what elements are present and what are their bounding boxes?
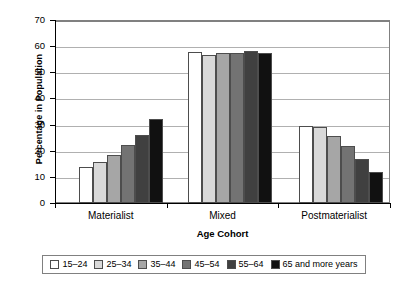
bar [135,135,149,203]
bar [355,159,369,203]
y-tick-label: 70 [5,15,45,25]
legend-label: 15–24 [62,260,87,269]
bar [230,53,244,203]
legend-label: 55–64 [239,260,264,269]
x-tick-mark [55,203,56,208]
legend-swatch [50,260,59,269]
bar [313,127,327,203]
y-tick-label: 10 [5,172,45,182]
legend-item: 35–44 [138,260,175,269]
legend-label: 25–34 [106,260,131,269]
legend-item: 55–64 [227,260,264,269]
bar [107,155,121,203]
bar [121,145,135,203]
x-category-label: Postmaterialist [301,210,367,221]
legend-item: 45–54 [182,260,219,269]
bar [79,167,93,203]
y-tick-label: 40 [5,94,45,104]
x-tick-mark [167,203,168,208]
y-tick-label: 30 [5,120,45,130]
legend: 15–2425–3435–4445–5455–6465 and more yea… [42,255,366,274]
bar [258,53,272,203]
y-tick-label: 0 [5,198,45,208]
x-axis-title: Age Cohort [55,228,390,239]
legend-label: 45–54 [194,260,219,269]
legend-swatch [271,260,280,269]
bar-chart: Percentage in Population 010203040506070… [0,0,409,284]
legend-label: 65 and more years [283,260,358,269]
bars-layer [55,20,390,203]
bar [341,146,355,203]
x-category-label: Mixed [209,210,236,221]
bar [202,55,216,203]
legend-swatch [227,260,236,269]
bar [216,53,230,203]
x-tick-mark [390,203,391,208]
legend-swatch [138,260,147,269]
legend-swatch [182,260,191,269]
bar [149,119,163,203]
bar [244,51,258,203]
legend-item: 25–34 [94,260,131,269]
bar [369,172,383,203]
legend-item: 65 and more years [271,260,358,269]
legend-item: 15–24 [50,260,87,269]
x-tick-mark [278,203,279,208]
legend-label: 35–44 [150,260,175,269]
y-tick-label: 20 [5,146,45,156]
legend-swatch [94,260,103,269]
x-category-label: Materialist [88,210,134,221]
y-tick-label: 50 [5,68,45,78]
y-tick-label: 60 [5,41,45,51]
bar [299,126,313,203]
bar [93,162,107,203]
x-axis-line [55,203,391,204]
bar [327,136,341,203]
bar [188,52,202,203]
